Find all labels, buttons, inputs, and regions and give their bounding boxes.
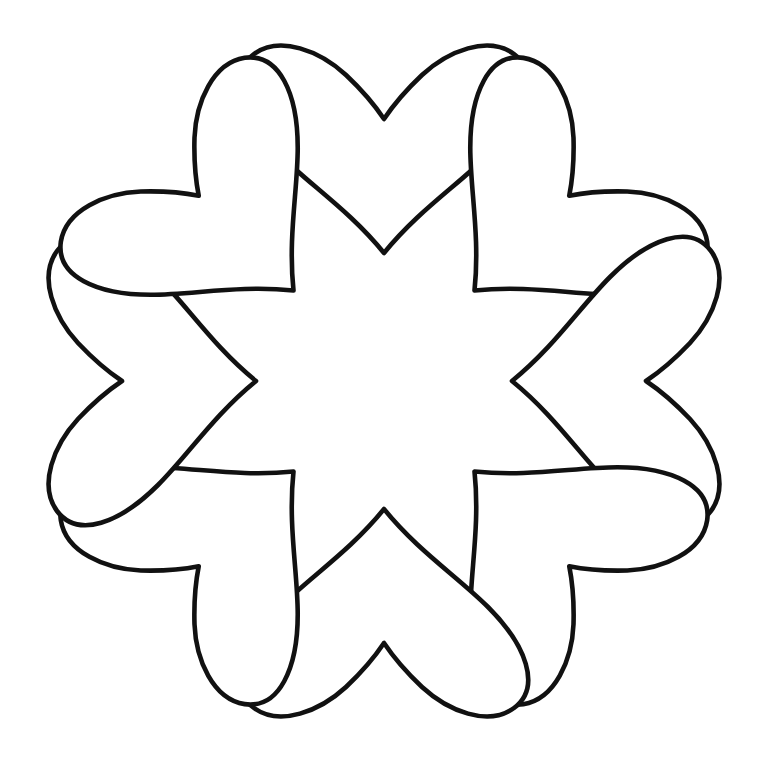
background-rect xyxy=(0,0,768,762)
drawing-canvas xyxy=(0,0,768,762)
flower-outline-illustration xyxy=(0,0,768,762)
